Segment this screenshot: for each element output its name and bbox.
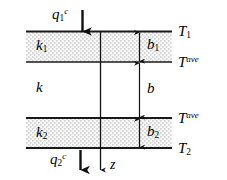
diagram-canvas: [0, 0, 227, 180]
bottom-layer-conductivity-label: k2: [36, 125, 47, 140]
outlet-flux-label: q2c: [50, 152, 66, 167]
z-axis-label: z: [110, 158, 115, 172]
composite-slab-diagram: q1c q2c z k1 k k2 b1 b b2 T1 Tave Tave T…: [0, 0, 227, 180]
top-layer-conductivity-label: k1: [36, 38, 47, 53]
middle-layer-conductivity-label: k: [36, 80, 43, 95]
upper-interface-temperature-label: Tave: [178, 55, 199, 70]
bottom-layer-thickness-label: b2: [147, 124, 159, 139]
top-layer-thickness-label: b1: [147, 37, 159, 52]
top-surface-temperature-label: T1: [178, 24, 191, 39]
middle-layer-thickness-label: b: [147, 81, 155, 96]
lower-interface-temperature-label: Tave: [178, 111, 199, 126]
bottom-surface-temperature-label: T2: [178, 141, 191, 156]
inlet-flux-label: q1c: [52, 7, 68, 22]
